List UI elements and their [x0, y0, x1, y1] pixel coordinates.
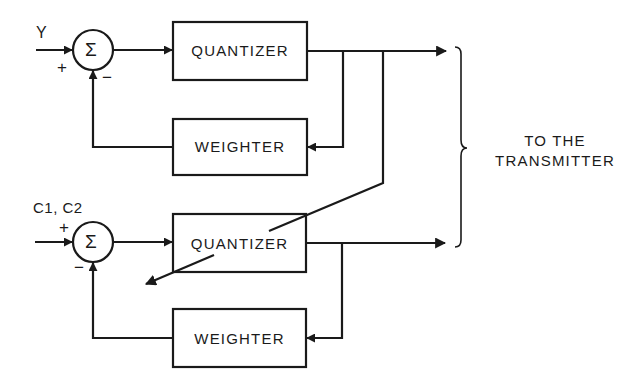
- weighter-bottom-label: WEIGHTER: [173, 330, 306, 347]
- input-label-y: Y: [36, 24, 48, 42]
- input-label-c1-c2: C1, C2: [33, 199, 83, 216]
- feedback-top-path: [308, 51, 343, 147]
- feedback-bottom-path: [307, 243, 342, 338]
- summer-bottom-minus: −: [74, 258, 85, 278]
- summer-bottom-plus: +: [59, 218, 70, 238]
- quantizer-top-label: QUANTIZER: [173, 42, 307, 59]
- destination-line-2: TRANSMITTER: [490, 151, 620, 171]
- weighter-top-label: WEIGHTER: [173, 138, 307, 155]
- cross-coupling-path-b: [146, 255, 214, 284]
- destination-line-1: TO THE: [490, 131, 620, 151]
- output-brace: [455, 47, 467, 247]
- summer-top-minus: −: [102, 68, 113, 88]
- destination-label: TO THE TRANSMITTER: [490, 131, 620, 171]
- quantizer-bottom-label: QUANTIZER: [173, 235, 306, 252]
- weighter-bottom-to-summer: [93, 263, 173, 338]
- summer-top-sigma-icon: Σ: [85, 39, 98, 61]
- summer-top-plus: +: [57, 58, 68, 78]
- summer-bottom-sigma-icon: Σ: [85, 231, 98, 253]
